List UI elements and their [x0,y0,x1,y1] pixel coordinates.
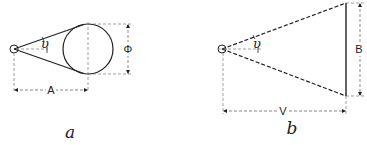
sight-line-bottom [222,49,346,96]
caption-a: a [65,122,75,142]
diameter-label: Φ [124,43,133,55]
arrow-down-icon [126,70,130,74]
figure-b: B V υ b [218,3,366,138]
arrow-down-icon [358,92,362,96]
sight-line-top [222,3,346,49]
arrow-right-icon [342,109,346,113]
caption-b: b [287,118,298,138]
distance-label: V [279,105,287,117]
arrow-up-icon [126,24,130,28]
diagram-canvas: Φ A υ a B V υ b [0,0,367,145]
arrow-left-icon [14,88,18,92]
arrow-right-icon [84,88,88,92]
distance-label: A [47,84,55,96]
arrow-up-icon [358,3,362,7]
figure-a: Φ A υ a [10,22,134,142]
height-label: B [355,43,362,55]
arrow-left-icon [223,109,227,113]
